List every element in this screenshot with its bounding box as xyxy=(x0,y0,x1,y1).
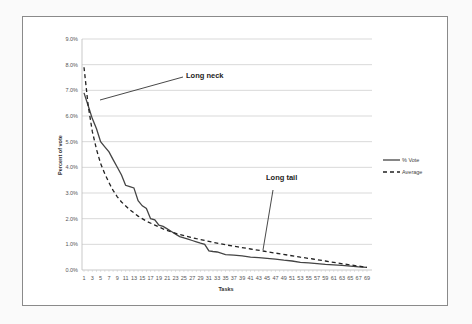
legend: % Vote Average xyxy=(383,157,422,175)
svg-text:7.0%: 7.0% xyxy=(65,87,78,93)
svg-text:2.0%: 2.0% xyxy=(65,216,78,222)
svg-text:25: 25 xyxy=(181,275,187,281)
svg-text:17: 17 xyxy=(148,275,154,281)
svg-text:4.0%: 4.0% xyxy=(65,164,78,170)
legend-average-label: Average xyxy=(402,169,422,175)
long-tail-annotation: Long tail xyxy=(266,173,297,182)
svg-text:37: 37 xyxy=(231,275,237,281)
y-axis-label: Percent of vote xyxy=(57,135,63,175)
svg-text:5: 5 xyxy=(99,275,102,281)
svg-text:35: 35 xyxy=(222,275,228,281)
svg-text:59: 59 xyxy=(322,275,328,281)
svg-text:7: 7 xyxy=(107,275,110,281)
svg-text:33: 33 xyxy=(214,275,220,281)
svg-text:3: 3 xyxy=(91,275,94,281)
x-axis-ticks: 1357911131517192123252729313335373941434… xyxy=(82,270,370,281)
svg-text:1.0%: 1.0% xyxy=(65,241,78,247)
svg-text:45: 45 xyxy=(264,275,270,281)
svg-text:65: 65 xyxy=(347,275,353,281)
svg-text:8.0%: 8.0% xyxy=(65,62,78,68)
svg-text:27: 27 xyxy=(189,275,195,281)
long-neck-arrow xyxy=(100,77,183,100)
svg-text:19: 19 xyxy=(156,275,162,281)
svg-text:61: 61 xyxy=(331,275,337,281)
long-neck-annotation: Long neck xyxy=(186,71,224,80)
svg-text:1: 1 xyxy=(82,275,85,281)
svg-text:6.0%: 6.0% xyxy=(65,113,78,119)
svg-text:15: 15 xyxy=(139,275,145,281)
x-axis-label: Tasks xyxy=(218,286,233,292)
svg-text:43: 43 xyxy=(256,275,262,281)
svg-text:23: 23 xyxy=(172,275,178,281)
svg-text:67: 67 xyxy=(356,275,362,281)
svg-text:21: 21 xyxy=(164,275,170,281)
svg-text:9: 9 xyxy=(116,275,119,281)
svg-text:49: 49 xyxy=(281,275,287,281)
line-chart: 0.0%1.0%2.0%3.0%4.0%5.0%6.0%7.0%8.0%9.0%… xyxy=(0,0,472,324)
y-axis-ticks: 0.0%1.0%2.0%3.0%4.0%5.0%6.0%7.0%8.0%9.0% xyxy=(65,36,78,273)
svg-text:53: 53 xyxy=(297,275,303,281)
svg-text:31: 31 xyxy=(206,275,212,281)
svg-text:3.0%: 3.0% xyxy=(65,190,78,196)
gridlines xyxy=(82,39,372,244)
svg-text:63: 63 xyxy=(339,275,345,281)
svg-text:9.0%: 9.0% xyxy=(65,36,78,42)
svg-text:69: 69 xyxy=(364,275,370,281)
svg-text:29: 29 xyxy=(197,275,203,281)
svg-text:39: 39 xyxy=(239,275,245,281)
legend-vote-label: % Vote xyxy=(402,157,419,163)
series-vote-line xyxy=(84,93,367,268)
svg-text:0.0%: 0.0% xyxy=(65,267,78,273)
svg-text:51: 51 xyxy=(289,275,295,281)
svg-text:41: 41 xyxy=(247,275,253,281)
svg-text:47: 47 xyxy=(272,275,278,281)
svg-text:5.0%: 5.0% xyxy=(65,139,78,145)
svg-text:55: 55 xyxy=(306,275,312,281)
long-tail-arrow xyxy=(263,190,273,250)
svg-text:13: 13 xyxy=(131,275,137,281)
svg-text:57: 57 xyxy=(314,275,320,281)
svg-text:11: 11 xyxy=(123,275,129,281)
